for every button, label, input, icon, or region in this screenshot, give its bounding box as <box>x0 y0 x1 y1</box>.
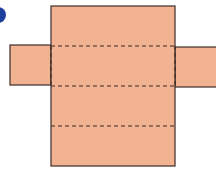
right-side-flap <box>175 47 216 87</box>
label-marker-icon <box>0 7 6 23</box>
prism-net-diagram <box>0 0 216 170</box>
left-side-flap <box>10 45 51 85</box>
